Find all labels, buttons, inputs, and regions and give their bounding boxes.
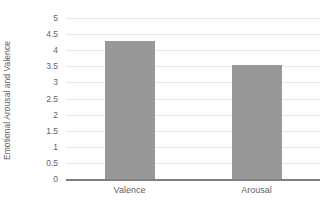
y-axis-tick-label: 4 (53, 45, 58, 55)
x-axis-label-arousal: Arousal (193, 185, 320, 195)
x-axis-labels: ValenceArousal (66, 182, 320, 198)
y-axis-tick-label: 0 (53, 174, 58, 184)
bar-slot (66, 18, 193, 179)
y-axis-tick-label: 1 (53, 142, 58, 152)
y-axis-ticks: 54.543.532.521.510.50 (0, 18, 62, 179)
bar-series (66, 18, 320, 179)
y-axis-tick-label: 5 (53, 13, 58, 23)
y-axis-tick-label: 3.5 (46, 61, 58, 71)
x-axis-label-valence: Valence (66, 185, 193, 195)
y-axis-tick-label: 0.5 (46, 158, 58, 168)
bar-chart: Emotional Arousal and Valence 54.543.532… (0, 0, 336, 201)
y-axis-tick-label: 3 (53, 77, 58, 87)
bar-slot (193, 18, 320, 179)
bar-valence (105, 41, 155, 179)
y-axis-tick-label: 2 (53, 110, 58, 120)
y-axis-tick-label: 4.5 (46, 29, 58, 39)
y-axis-tick-label: 1.5 (46, 126, 58, 136)
y-axis-tick-label: 2.5 (46, 94, 58, 104)
x-axis-line (66, 179, 320, 181)
bar-arousal (232, 65, 282, 179)
